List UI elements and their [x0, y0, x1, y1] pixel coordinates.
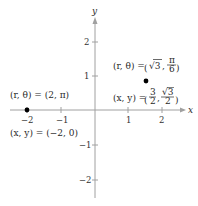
point-b-y-den: 2 [165, 96, 171, 106]
y-tick-label: 1 [84, 71, 89, 81]
x-tick-label: 2 [159, 115, 164, 125]
y-tick-label: −1 [79, 140, 92, 150]
paren-open: ( [144, 63, 148, 73]
point-a-polar-label: (r, θ) = (2, π) [10, 90, 69, 100]
point-a-dot [25, 108, 30, 113]
y-axis-label: y [91, 6, 98, 16]
x-axis: x [10, 105, 193, 115]
point-b-rect-prefix: (x, y) = [113, 93, 146, 103]
point-b-polar-prefix: (r, θ) = [113, 61, 145, 71]
x-axis-label: x [188, 105, 193, 115]
paren-close: ) [175, 95, 179, 105]
y-axis: y [91, 6, 98, 198]
point-b-x-den: 2 [150, 96, 156, 106]
point-b-theta-den: 6 [169, 64, 175, 74]
point-b-dot [144, 79, 149, 84]
point-b-polar-r: √3 [149, 61, 161, 71]
y-tick-label: 2 [84, 37, 89, 47]
point-a: (r, θ) = (2, π) (x, y) = (−2, 0) [10, 90, 78, 138]
polar-coordinates-diagram: x y −2 −1 1 2 2 1 −1 −2 (r, θ) = (2, π) … [0, 0, 198, 206]
y-tick-label: −2 [79, 175, 92, 185]
x-tick-label: 1 [126, 115, 131, 125]
paren-open: ( [144, 95, 148, 105]
comma: , [157, 93, 160, 103]
comma: , [162, 61, 165, 71]
y-axis-arrow-icon [93, 17, 98, 24]
point-a-rect-label: (x, y) = (−2, 0) [10, 128, 78, 138]
x-tick-label: −2 [21, 115, 34, 125]
x-tick-label: −1 [56, 115, 69, 125]
point-b: (r, θ) = ( √3 , π 6 ) (x, y) = ( 3 2 , √… [113, 55, 180, 106]
paren-close: ) [176, 63, 180, 73]
x-axis-arrow-icon [180, 108, 186, 113]
